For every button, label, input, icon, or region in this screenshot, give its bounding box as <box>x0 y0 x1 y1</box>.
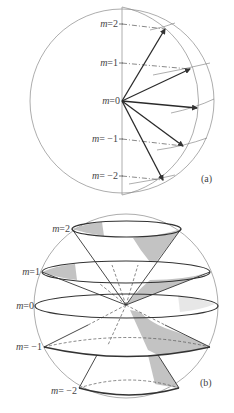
label-a-m-1: m= −1 <box>92 133 118 144</box>
label-a-m-2: m= −2 <box>92 170 118 181</box>
inner-sphere-arc-a <box>122 7 199 195</box>
label-b-m-1: m= −1 <box>16 341 42 352</box>
angular-momentum-quantization-figure: m=2 m=1 m=0 m= −1 m= −2 (a) <box>0 0 234 413</box>
vector-m-1 <box>122 101 183 146</box>
cone-shading <box>42 222 215 388</box>
label-b-m2: m=2 <box>52 223 70 234</box>
label-b-m-2: m= −2 <box>51 385 77 396</box>
figure-a-vector-model: m=2 m=1 m=0 m= −1 m= −2 (a) <box>30 7 214 195</box>
precession-arcs <box>129 23 214 184</box>
vector-m-2 <box>122 101 163 180</box>
angular-momentum-vectors <box>122 29 197 180</box>
caption-a: (a) <box>201 173 212 185</box>
vector-m0 <box>122 101 197 108</box>
label-a-m2: m=2 <box>100 18 118 29</box>
cone-ring-m-2 <box>79 388 179 395</box>
label-b-m0: m=0 <box>16 300 34 311</box>
label-a-m1: m=1 <box>100 57 118 68</box>
figure-b-cone-model: m=2 m=1 m=0 m= −1 m= −2 (b) <box>16 214 218 398</box>
caption-b: (b) <box>200 377 212 389</box>
label-a-m0: m=0 <box>102 95 120 106</box>
label-b-m1: m=1 <box>22 266 40 277</box>
